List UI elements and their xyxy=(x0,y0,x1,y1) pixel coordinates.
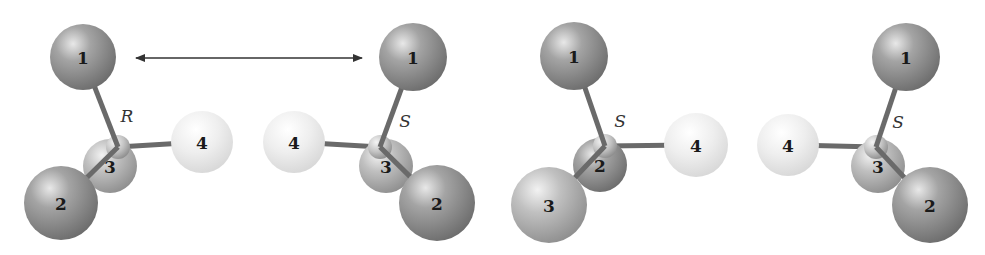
atom-number-label: 1 xyxy=(568,47,580,67)
molecule-1: 4321R xyxy=(24,24,233,240)
molecule-2: 4321S xyxy=(263,23,475,241)
molecule-4: 4321S xyxy=(757,23,968,243)
atom-number-label: 1 xyxy=(900,48,912,68)
atom-number-label: 3 xyxy=(872,157,884,177)
configuration-label: S xyxy=(399,111,411,131)
atom-number-label: 4 xyxy=(288,133,300,153)
atom-number-label: 4 xyxy=(690,136,702,156)
atom-2: 2 xyxy=(892,167,968,243)
configuration-label: R xyxy=(120,106,134,126)
atom-1: 1 xyxy=(379,23,447,91)
molecules-layer: 4321R4321S4231S4321S xyxy=(24,22,968,243)
atom-number-label: 4 xyxy=(196,133,208,153)
atom-number-label: 4 xyxy=(782,136,794,156)
atom-3: 3 xyxy=(511,167,587,243)
atom-4: 4 xyxy=(171,111,233,173)
atom-number-label: 1 xyxy=(77,48,89,68)
molecule-3: 4231S xyxy=(511,22,728,243)
bond-line xyxy=(583,83,605,146)
atom-number-label: 2 xyxy=(431,194,443,214)
configuration-label: S xyxy=(892,112,904,132)
atom-1: 1 xyxy=(540,22,608,90)
atom-4: 4 xyxy=(757,114,819,176)
molecule-diagram-canvas: 4321R4321S4231S4321S xyxy=(0,0,985,255)
atom-4: 4 xyxy=(263,111,325,173)
atom-number-label: 2 xyxy=(55,194,67,214)
stereochemistry-figure: 4321R4321S4231S4321S xyxy=(0,0,985,255)
configuration-label: S xyxy=(614,111,626,131)
atom-number-label: 2 xyxy=(924,196,936,216)
atom-number-label: 1 xyxy=(407,48,419,68)
bond-line xyxy=(93,83,118,147)
atom-1: 1 xyxy=(872,23,940,91)
atom-1: 1 xyxy=(50,24,116,90)
atom-4: 4 xyxy=(664,113,728,177)
atom-2: 2 xyxy=(24,166,98,240)
atom-2: 2 xyxy=(399,165,475,241)
atom-number-label: 3 xyxy=(543,196,555,216)
